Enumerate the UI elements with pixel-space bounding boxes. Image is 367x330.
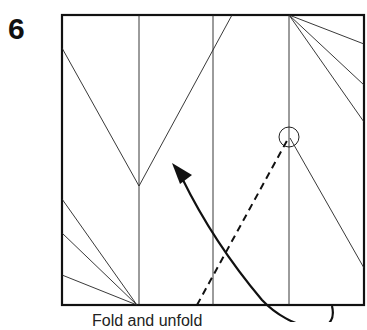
top-right-fan-creases bbox=[289, 15, 364, 122]
fold-arrow-curve bbox=[182, 178, 333, 322]
right-diagonal-crease bbox=[290, 138, 364, 268]
valley-fold-dashed-line bbox=[197, 137, 289, 305]
top-v-crease bbox=[62, 15, 232, 186]
step-caption: Fold and unfold bbox=[92, 312, 202, 330]
vertical-creases bbox=[139, 15, 289, 305]
bottom-left-fan-creases bbox=[62, 199, 137, 305]
fold-arrow-head-icon bbox=[172, 163, 192, 184]
